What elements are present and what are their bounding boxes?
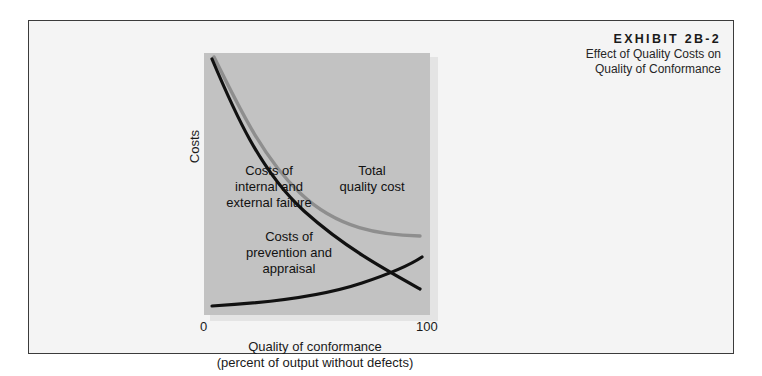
exhibit-caption-line-1: Effect of Quality Costs on <box>586 47 721 62</box>
prevention-cost-label-line-2: prevention and <box>214 245 364 261</box>
exhibit-root: EXHIBIT 2B-2 Effect of Quality Costs on … <box>0 0 762 376</box>
failure-cost-label-line-1: Costs of <box>194 163 344 179</box>
x-axis-tick-0: 0 <box>200 319 207 334</box>
total-quality-cost-label-line-2: quality cost <box>326 179 418 195</box>
x-axis-tick-100: 100 <box>416 319 438 334</box>
exhibit-number: EXHIBIT 2B-2 <box>586 31 721 47</box>
exhibit-caption-line-2: Quality of Conformance <box>586 62 721 77</box>
chart-container: Costs Costs of internal and external fai… <box>176 33 446 333</box>
prevention-cost-label-line-3: appraisal <box>214 261 364 277</box>
x-axis-title-line-2: (percent of output without defects) <box>170 355 460 371</box>
failure-cost-label-line-3: external failure <box>194 195 344 211</box>
total-quality-cost-label: Total quality cost <box>326 163 418 195</box>
x-axis-title: Quality of conformance (percent of outpu… <box>170 339 460 371</box>
prevention-cost-label: Costs of prevention and appraisal <box>214 229 364 277</box>
total-quality-cost-label-line-1: Total <box>326 163 418 179</box>
x-axis-title-line-1: Quality of conformance <box>170 339 460 355</box>
exhibit-frame: EXHIBIT 2B-2 Effect of Quality Costs on … <box>28 20 734 354</box>
failure-cost-label-line-2: internal and <box>194 179 344 195</box>
failure-cost-label: Costs of internal and external failure <box>194 163 344 211</box>
prevention-cost-label-line-1: Costs of <box>214 229 364 245</box>
exhibit-caption: EXHIBIT 2B-2 Effect of Quality Costs on … <box>586 31 721 77</box>
